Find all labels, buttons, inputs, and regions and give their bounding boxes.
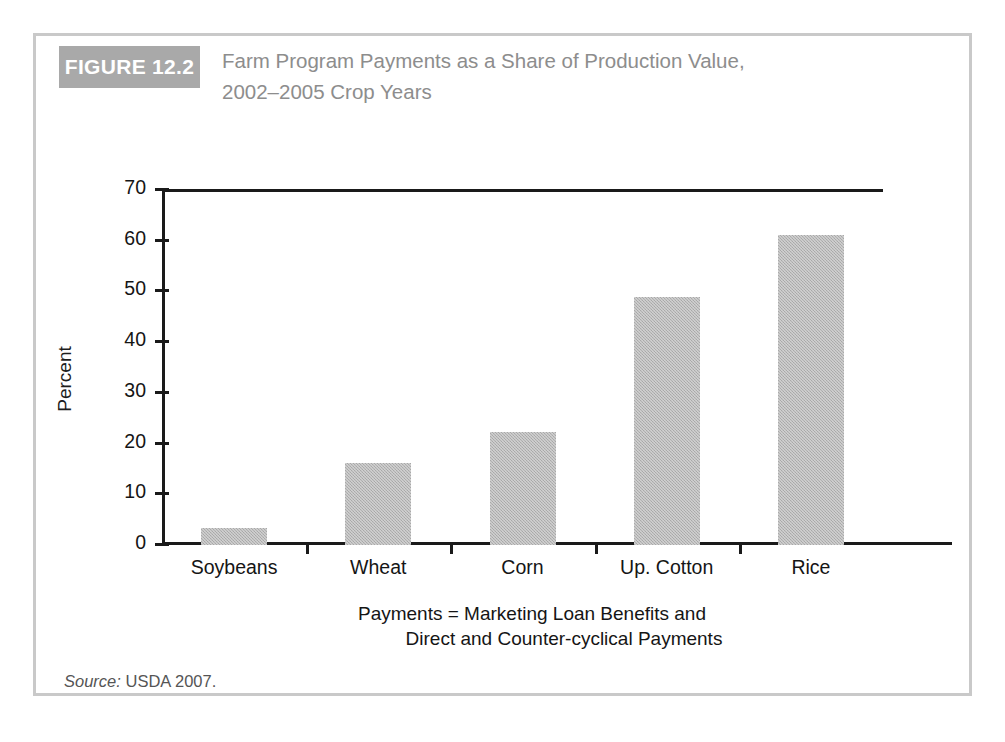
y-axis-tick-label: 40 [86, 328, 146, 351]
y-axis-tick-label: 30 [86, 379, 146, 402]
x-axis-tick [306, 545, 309, 554]
bar [778, 235, 844, 545]
figure-number-label: FIGURE 12.2 [65, 55, 194, 79]
y-axis-tick-label: 20 [86, 430, 146, 453]
chart-plot-area: Percent 010203040506070 SoybeansWheatCor… [36, 114, 975, 699]
y-axis-title: Percent [52, 309, 78, 449]
y-axis-title-label: Percent [54, 346, 76, 411]
chart-annotation-line-2: Direct and Counter-cyclical Payments [162, 626, 902, 651]
y-axis-tick-label: 10 [86, 480, 146, 503]
x-axis-tick [739, 545, 742, 554]
bar [490, 432, 556, 545]
source-label: Source: [64, 672, 121, 690]
x-axis-label: Rice [711, 556, 911, 579]
chart-annotation-line-1: Payments = Marketing Loan Benefits and [162, 601, 902, 626]
figure-title: Farm Program Payments as a Share of Prod… [222, 45, 922, 107]
figure-card: FIGURE 12.2 Farm Program Payments as a S… [33, 33, 972, 696]
y-axis-tick-label: 0 [86, 531, 146, 554]
figure-header: FIGURE 12.2 Farm Program Payments as a S… [36, 36, 969, 114]
figure-title-line-1: Farm Program Payments as a Share of Prod… [222, 45, 922, 76]
x-axis-tick [595, 545, 598, 554]
figure-number-badge: FIGURE 12.2 [59, 46, 200, 88]
bar-series [162, 189, 883, 545]
figure-title-line-2: 2002–2005 Crop Years [222, 76, 922, 107]
chart-annotation: Payments = Marketing Loan Benefits and D… [162, 601, 902, 651]
y-axis-tick-label: 50 [86, 277, 146, 300]
bar [201, 528, 267, 545]
y-axis-tick-label: 60 [86, 227, 146, 250]
source-value: USDA 2007. [121, 672, 216, 690]
bar [345, 463, 411, 545]
bar [634, 297, 700, 545]
source-note: Source: USDA 2007. [64, 672, 216, 691]
y-axis-tick-label: 70 [86, 176, 146, 199]
x-axis-tick [450, 545, 453, 554]
